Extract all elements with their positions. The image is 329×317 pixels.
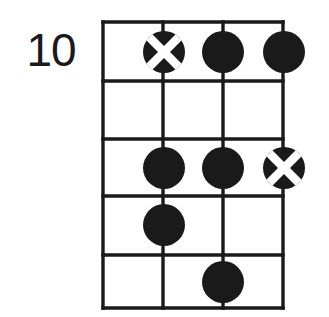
- marker-dot: [202, 31, 244, 73]
- marker-dot: [143, 204, 185, 246]
- marker-dot: [263, 31, 305, 73]
- marker-dot-string3-fret3[interactable]: [202, 147, 244, 189]
- marker-dot-string3-fret5[interactable]: [202, 261, 244, 303]
- marker-dot-string4-fret1[interactable]: [263, 31, 305, 73]
- marker-dot-string3-fret1[interactable]: [202, 31, 244, 73]
- marker-dot: [202, 147, 244, 189]
- marker-dot: [143, 147, 185, 189]
- chord-diagram: 10: [0, 0, 329, 317]
- marker-dot: [202, 261, 244, 303]
- fretboard-grid: [0, 0, 329, 317]
- fret-lines-group: [103, 22, 283, 308]
- string-lines-group: [103, 22, 283, 308]
- marker-dot-string2-fret3[interactable]: [143, 147, 185, 189]
- marker-dot-string2-fret4[interactable]: [143, 204, 185, 246]
- fingering-markers-group: [143, 31, 305, 303]
- marker-x-string2-fret1[interactable]: [143, 31, 185, 73]
- marker-x-string4-fret3[interactable]: [263, 147, 305, 189]
